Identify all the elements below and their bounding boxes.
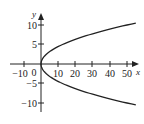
- x-tick-label: 40: [105, 68, 115, 79]
- x-tick-label: 30: [87, 68, 97, 79]
- x-axis-label: x: [135, 67, 140, 77]
- y-tick-label: 5: [32, 39, 37, 50]
- y-tick-label: −10: [21, 98, 37, 109]
- y-axis-arrow-icon: [38, 13, 44, 20]
- y-tick-label: 10: [27, 20, 37, 31]
- x-tick-label: 50: [122, 68, 132, 79]
- x-tick-label: 20: [70, 68, 80, 79]
- origin-label: 0: [32, 67, 37, 78]
- chart-canvas: −10 0 10 20 30 40 50 10 5 −5 −10 y x: [0, 0, 144, 124]
- y-axis-label: y: [31, 9, 36, 19]
- y-tick-label: −5: [26, 78, 37, 89]
- x-tick-label: 10: [53, 68, 63, 79]
